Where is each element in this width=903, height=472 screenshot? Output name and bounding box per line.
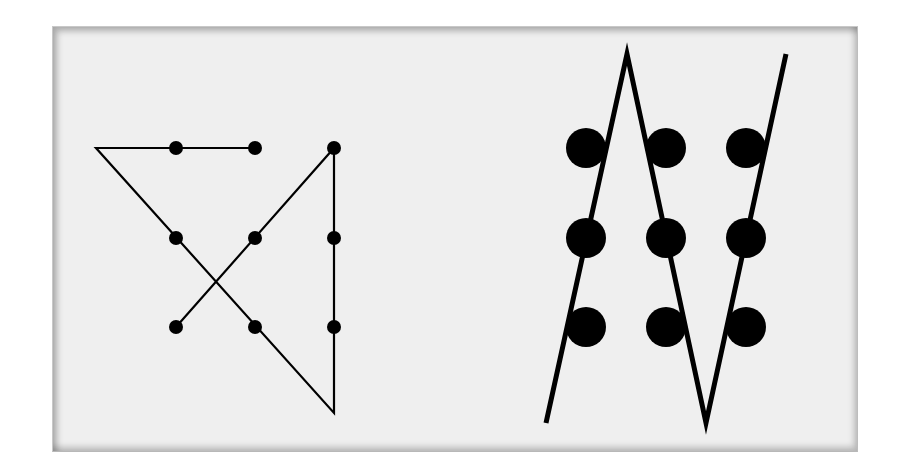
right-solution	[546, 54, 786, 423]
left-dot-r1c1	[169, 141, 183, 155]
left-dot-r1c3	[327, 141, 341, 155]
left-dot-r3c2	[248, 320, 262, 334]
nine-dot-diagram	[0, 0, 903, 472]
left-dot-r2c2	[248, 231, 262, 245]
right-dot-r1c3	[726, 128, 766, 168]
left-dot-r2c3	[327, 231, 341, 245]
left-dot-r3c1	[169, 320, 183, 334]
left-dot-r1c2	[248, 141, 262, 155]
left-solution-path	[96, 148, 334, 413]
right-dot-r1c1	[566, 128, 606, 168]
left-dot-r3c3	[327, 320, 341, 334]
left-dot-r2c1	[169, 231, 183, 245]
left-solution	[96, 141, 341, 413]
